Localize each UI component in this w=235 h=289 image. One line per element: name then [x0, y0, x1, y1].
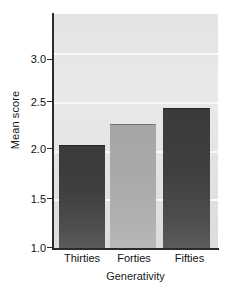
x-tick-label-forties: Forties — [106, 252, 162, 264]
y-tick-label: 2.0 — [18, 144, 46, 155]
y-axis-tick-labels: 1.0 1.5 2.0 2.5 3.0 — [16, 0, 46, 289]
bar-fifties — [163, 108, 210, 248]
x-tick-label-fifties: Fifties — [161, 252, 218, 264]
bar-thirties — [59, 145, 105, 248]
plot-area — [53, 14, 218, 248]
y-tick-label: 3.0 — [18, 54, 46, 65]
y-tick-label: 1.5 — [18, 194, 46, 205]
gridline-3-0 — [53, 53, 218, 55]
y-axis-line — [52, 13, 54, 249]
bar-top-edge — [59, 145, 105, 146]
x-tick-label-thirties: Thirties — [53, 252, 111, 264]
y-tick-label: 2.5 — [18, 97, 46, 108]
gridline-2-5 — [53, 102, 218, 104]
x-axis-title: Generativity — [53, 270, 218, 282]
bar-chart: Mean score 1.0 1.5 2.0 2.5 3.0 Thirties … — [0, 0, 235, 289]
x-axis-tick-labels: Thirties Forties Fifties — [53, 252, 218, 268]
bar-top-edge — [163, 108, 210, 109]
x-axis-line — [52, 248, 219, 250]
bar-top-edge — [110, 124, 156, 125]
y-tick-label: 1.0 — [18, 243, 46, 254]
bar-forties — [110, 124, 156, 248]
